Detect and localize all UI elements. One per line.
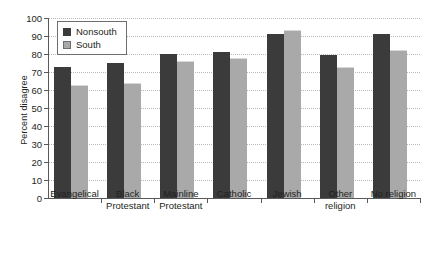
bar-nonsouth bbox=[267, 34, 284, 198]
bar-chart: Percent disagree 0102030405060708090100 … bbox=[0, 0, 431, 253]
bar-nonsouth bbox=[107, 63, 124, 198]
legend-swatch-south bbox=[63, 41, 71, 49]
legend-label-nonsouth: Nonsouth bbox=[76, 26, 117, 37]
bar-south bbox=[337, 67, 354, 198]
legend-swatch-nonsouth bbox=[63, 28, 71, 36]
bar-nonsouth bbox=[213, 52, 230, 198]
bar-south bbox=[230, 58, 247, 198]
y-tick-label: 80 bbox=[31, 49, 42, 60]
bar-nonsouth bbox=[54, 67, 71, 198]
y-tick-label: 40 bbox=[31, 121, 42, 132]
bar-south bbox=[177, 61, 194, 198]
bar-south bbox=[390, 50, 407, 198]
bar-nonsouth bbox=[373, 34, 390, 198]
y-tick-label: 20 bbox=[31, 157, 42, 168]
y-tick-label: 50 bbox=[31, 103, 42, 114]
bar-group bbox=[261, 18, 314, 198]
y-tick-label: 90 bbox=[31, 31, 42, 42]
bar-south bbox=[124, 83, 141, 198]
bar-group bbox=[367, 18, 420, 198]
bar-south bbox=[284, 30, 301, 198]
legend-item: Nonsouth bbox=[63, 25, 117, 38]
y-tick-label: 70 bbox=[31, 67, 42, 78]
bar-south bbox=[71, 85, 88, 198]
legend-item: South bbox=[63, 38, 117, 51]
y-tick-label: 30 bbox=[31, 139, 42, 150]
chart-legend: Nonsouth South bbox=[57, 21, 127, 55]
bar-group bbox=[207, 18, 260, 198]
bar-nonsouth bbox=[320, 55, 337, 198]
legend-label-south: South bbox=[76, 39, 101, 50]
x-tick-label: No religion bbox=[361, 188, 426, 200]
bar-group bbox=[314, 18, 367, 198]
y-tick-label: 60 bbox=[31, 85, 42, 96]
y-tick-label: 10 bbox=[31, 175, 42, 186]
bar-group bbox=[154, 18, 207, 198]
y-tick-label: 100 bbox=[26, 13, 42, 24]
y-axis-title: Percent disagree bbox=[19, 45, 29, 175]
bar-nonsouth bbox=[160, 54, 177, 198]
